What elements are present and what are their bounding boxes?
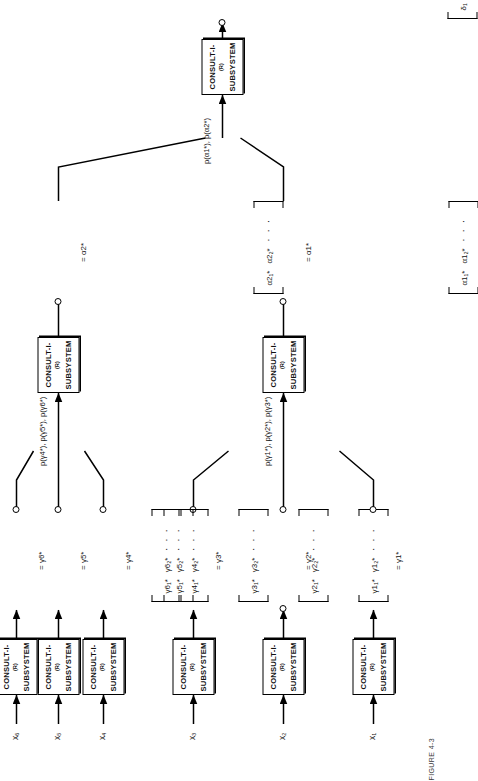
vector-cell: γ6₁*	[162, 579, 171, 593]
subsystem-line1: CONSULT-I-(R)	[43, 643, 63, 691]
vector-cell: γ6₂*	[162, 558, 171, 573]
leaf-subsystem-box-1[interactable]: CONSULT-I-(R) SUBSYSTEM	[352, 639, 394, 695]
vector-cell: α1₂*	[459, 248, 468, 263]
alpha-node-1[interactable]	[279, 298, 286, 305]
subsystem-line2: SUBSYSTEM	[288, 642, 297, 691]
subsystem-line1: CONSULT-I-(R)	[268, 643, 288, 691]
leaf-subsystem-box-6[interactable]: CONSULT-I-(R) SUBSYSTEM	[0, 639, 37, 695]
gamma-node-2-out[interactable]	[279, 605, 286, 612]
vector-cell: γ3₂*	[249, 558, 258, 573]
subsystem-line1: CONSULT-I-(R)	[268, 341, 288, 389]
gamma-vector-1-label: = γ1*	[393, 552, 402, 570]
gamma-vector-5-label: = γ5*	[78, 552, 87, 570]
vector-ellipsis: · · ·	[307, 528, 320, 552]
subsystem-line2: SUBSYSTEM	[108, 642, 117, 691]
delta-node[interactable]	[218, 19, 225, 26]
vector-ellipsis: · · ·	[160, 528, 173, 552]
alpha-vector-2: α2₁* α2₂* · · ·	[253, 201, 283, 294]
subsystem-line2: SUBSYSTEM	[63, 340, 72, 389]
alpha-vector-1: α1₁* α1₂* · · ·	[448, 201, 478, 294]
gamma-node-1[interactable]	[369, 506, 376, 513]
vector-cell: α2₂*	[264, 248, 273, 263]
vector-ellipsis: · · ·	[457, 218, 470, 242]
subsystem-line1: CONSULT-I-(R)	[358, 643, 378, 691]
subsystem-line2: SUBSYSTEM	[288, 340, 297, 389]
input-label-x6: x6	[9, 733, 19, 740]
subsystem-line1: CONSULT-I-(R)	[1, 643, 21, 691]
mid-subsystem-box-1[interactable]: CONSULT-I-(R) SUBSYSTEM	[262, 337, 304, 393]
leaf-subsystem-box-4[interactable]: CONSULT-I-(R) SUBSYSTEM	[82, 639, 124, 695]
subsystem-line2: SUBSYSTEM	[21, 642, 30, 691]
alpha-node-2[interactable]	[54, 298, 61, 305]
subsystem-line1: CONSULT-I-(R)	[43, 341, 63, 389]
vector-cell: δ₁	[458, 3, 467, 10]
vector-cell: γ1₂*	[369, 558, 378, 573]
vector-cell: α1₁*	[459, 271, 468, 286]
leaf-subsystem-box-3[interactable]: CONSULT-I-(R) SUBSYSTEM	[172, 639, 214, 695]
input-label-x3: x3	[186, 733, 196, 740]
input-label-x1: x1	[366, 733, 376, 740]
gamma-vector-1: γ1₁* γ1₂* · · ·	[358, 509, 388, 602]
mid-edge-label-2: p(γ4*), p(γ5*), p(γ6*)	[37, 397, 46, 466]
gamma-vector-4-label: = γ4*	[123, 552, 132, 570]
vector-ellipsis: · · ·	[247, 528, 260, 552]
vector-cell: γ2₁*	[309, 579, 318, 593]
alpha-vector-2-label: = α2*	[78, 243, 87, 262]
subsystem-line2: SUBSYSTEM	[198, 642, 207, 691]
subsystem-line2: SUBSYSTEM	[63, 642, 72, 691]
gamma-vector-6-label: = γ6*	[36, 552, 45, 570]
delta-output-vector: δ₁ δ₂ · · ·	[447, 0, 477, 19]
root-subsystem-box[interactable]: CONSULT-I-(R) SUBSYSTEM	[201, 39, 243, 95]
subsystem-line2: SUBSYSTEM	[227, 42, 236, 91]
subsystem-line2: SUBSYSTEM	[378, 642, 387, 691]
alpha-vector-1-label: = α1*	[303, 243, 312, 262]
gamma-vector-2: γ2₁* γ2₂* · · ·	[298, 509, 328, 602]
gamma-vector-3-label: = γ3*	[213, 552, 222, 570]
vector-cell: α2₁*	[264, 271, 273, 286]
subsystem-line1: CONSULT-I-(R)	[88, 643, 108, 691]
root-edge-label: p(α1*), p(α2*)	[201, 118, 210, 164]
gamma-node-2[interactable]	[279, 506, 286, 513]
subsystem-line1: CONSULT-I-(R)	[178, 643, 198, 691]
gamma-node-4[interactable]	[99, 506, 106, 513]
vector-cell: γ3₁*	[249, 579, 258, 593]
leaf-subsystem-box-2[interactable]: CONSULT-I-(R) SUBSYSTEM	[262, 639, 304, 695]
vector-ellipsis: · · ·	[262, 218, 275, 242]
input-label-x2: x2	[276, 733, 286, 740]
vector-ellipsis: · · ·	[367, 528, 380, 552]
gamma-vector-2-label: = γ2*	[303, 552, 312, 570]
mid-subsystem-box-2[interactable]: CONSULT-I-(R) SUBSYSTEM	[37, 337, 79, 393]
leaf-subsystem-box-5[interactable]: CONSULT-I-(R) SUBSYSTEM	[37, 639, 79, 695]
gamma-node-6[interactable]	[12, 506, 19, 513]
figure-caption: FIGURE 4-3	[428, 738, 435, 781]
gamma-vector-6: γ6₁* γ6₂* · · ·	[151, 509, 181, 602]
mid-edge-label-1: p(γ1*), p(γ2*), p(γ3*)	[262, 397, 271, 466]
input-label-x4: x4	[96, 733, 106, 740]
subsystem-line1: CONSULT-I-(R)	[207, 43, 227, 91]
gamma-node-5[interactable]	[54, 506, 61, 513]
input-label-x5: x5	[51, 733, 61, 740]
gamma-vector-3: γ3₁* γ3₂* · · ·	[238, 509, 268, 602]
vector-cell: γ1₁*	[369, 579, 378, 593]
